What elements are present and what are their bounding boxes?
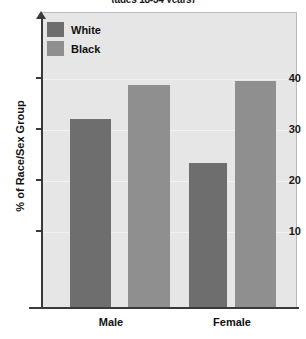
y-tick-label-10: 10 xyxy=(268,225,306,237)
x-category-label-male: Male xyxy=(99,316,123,328)
legend-item-black[interactable]: Black xyxy=(47,41,101,56)
chart-title: (ages 18-34 years) xyxy=(0,0,306,3)
bar-male-white[interactable] xyxy=(70,119,111,307)
y-tick-label-40: 40 xyxy=(268,72,306,84)
legend-item-white[interactable]: White xyxy=(47,22,101,37)
y-tick-label-30: 30 xyxy=(268,123,306,135)
y-tick-mark-20 xyxy=(36,179,42,181)
y-axis-title: % of Race/Sex Group xyxy=(14,66,26,246)
y-tick-mark-40 xyxy=(36,77,42,79)
bar-chart-figure: (ages 18-34 years) 40 30 20 10 % of Race… xyxy=(0,0,306,339)
bar-male-black[interactable] xyxy=(128,85,170,307)
x-axis-line xyxy=(29,307,299,309)
y-tick-label-20: 20 xyxy=(268,174,306,186)
bar-female-white[interactable] xyxy=(189,163,227,307)
legend-label-white: White xyxy=(71,24,101,36)
legend-swatch-black-icon xyxy=(47,41,64,56)
x-category-label-female: Female xyxy=(213,316,251,328)
legend: White Black xyxy=(47,22,101,56)
legend-swatch-white-icon xyxy=(47,22,64,37)
legend-label-black: Black xyxy=(71,43,100,55)
bars-layer xyxy=(41,12,297,307)
y-tick-mark-10 xyxy=(36,230,42,232)
y-axis-line xyxy=(41,17,43,308)
bar-female-black[interactable] xyxy=(235,81,276,307)
y-tick-mark-30 xyxy=(36,128,42,130)
